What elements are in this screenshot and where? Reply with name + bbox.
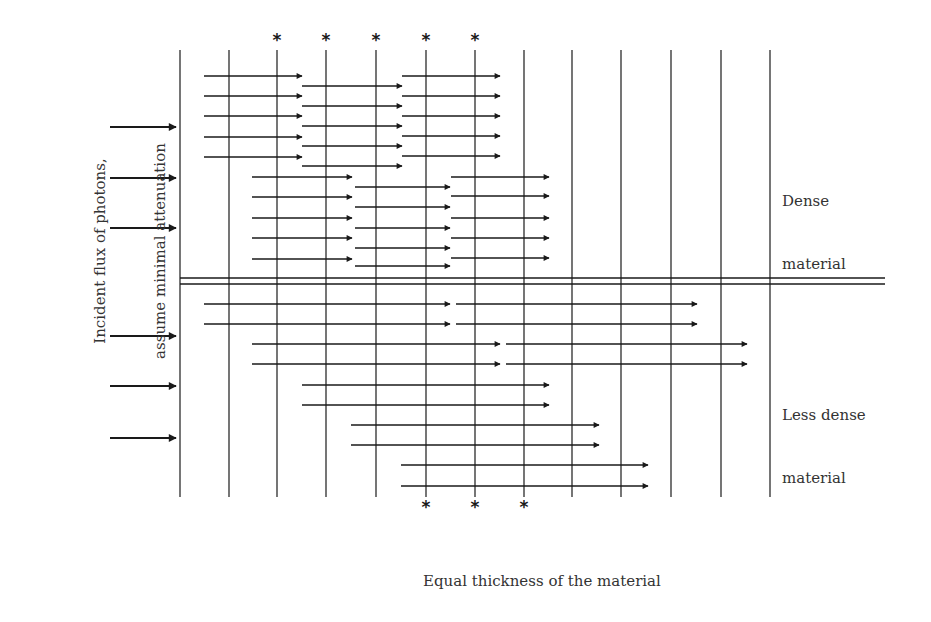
less-dense-label-line-1: Less dense bbox=[782, 405, 866, 426]
asterisk-marker: * bbox=[422, 497, 431, 517]
asterisk-marker: * bbox=[471, 497, 480, 517]
asterisk-marker: * bbox=[422, 30, 431, 50]
incident-label-line-2: assume minimal attenuation bbox=[150, 86, 170, 416]
material-boundary-double-line bbox=[180, 278, 885, 284]
asterisk-marker: * bbox=[520, 497, 529, 517]
thickness-caption: Equal thickness of the material in which… bbox=[423, 529, 661, 622]
asterisk-marker: * bbox=[372, 30, 381, 50]
asterisk-marker: * bbox=[273, 30, 282, 50]
dense-label-line-1: Dense bbox=[782, 191, 846, 212]
incident-label-line-1: Incident flux of photons, bbox=[90, 86, 110, 416]
asterisk-marker: * bbox=[471, 30, 480, 50]
asterisk-marker: * bbox=[322, 30, 331, 50]
dense-label-line-2: material bbox=[782, 254, 846, 275]
material-layer-lines bbox=[180, 50, 770, 497]
incident-flux-label: Incident flux of photons, assume minimal… bbox=[50, 86, 190, 416]
dense-material-label: Dense material bbox=[782, 149, 846, 296]
asterisk-markers: ******** bbox=[273, 30, 529, 517]
less-dense-label-line-2: material bbox=[782, 468, 866, 489]
less-dense-material-label: Less dense material bbox=[782, 363, 866, 510]
caption-line-1: Equal thickness of the material bbox=[423, 571, 661, 592]
